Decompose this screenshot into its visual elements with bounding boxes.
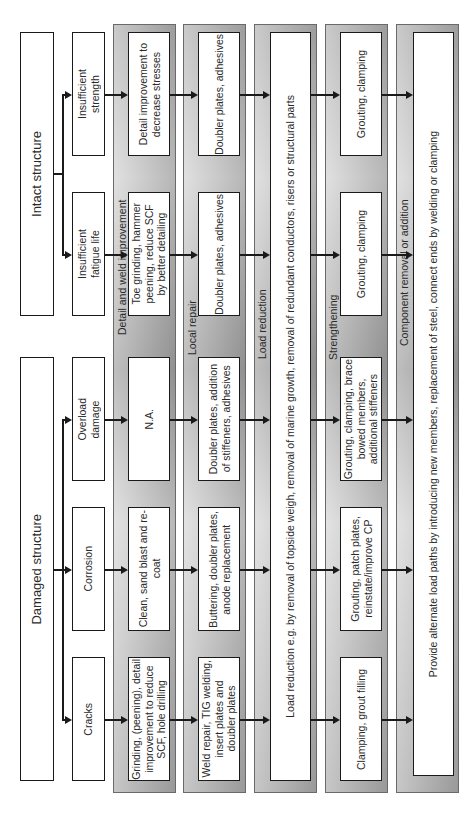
arrow-icon [406,716,413,724]
arrow-line [311,719,334,721]
arrow-line [240,419,264,421]
arrow-line [382,94,407,96]
repair-cell: Grinding, (peening), detail improvement … [128,657,170,781]
arrow-icon [406,566,413,574]
arrow-line [105,254,122,256]
arrow-icon [121,416,128,424]
arrow-icon [333,716,340,724]
arrow-icon [65,251,72,259]
arrow-line [240,254,264,256]
arrow-line [105,719,122,721]
band-title: Strengthening [327,300,339,360]
arrow-line [382,254,407,256]
repair-cell-full: Load reduction e.g. by removal of topsid… [270,32,311,781]
cause-cracks: Cracks [72,657,105,781]
band-title: Load reduction [256,290,268,370]
repair-cell: Clamping, grout filling [340,657,382,781]
arrow-line [311,94,334,96]
arrow-icon [65,416,72,424]
arrow-icon [191,91,198,99]
arrow-icon [65,91,72,99]
arrow-icon [333,91,340,99]
arrow-line [311,569,334,571]
arrow-line [170,94,192,96]
arrow-line [170,719,192,721]
repair-cell: Doubler plates, adhesives [198,32,240,156]
repair-cell: Weld repair, TIG welding, insert plates … [198,657,240,781]
cause-overload-damage: Overload damage [72,357,105,481]
connector [62,94,64,256]
arrow-icon [121,251,128,259]
band-title: Local repair [186,300,198,360]
arrow-icon [263,251,270,259]
arrow-icon [121,566,128,574]
repair-cell: Grouting, clamping [340,192,382,316]
band-title: Component removal or addition [398,200,410,360]
arrow-line [311,419,334,421]
repair-cell-full: Provide alternate load paths by introduc… [413,32,454,776]
arrow-line [105,94,122,96]
cause-insufficient-fatigue-life: Insufficient fatigue life [72,192,105,316]
arrow-line [240,94,264,96]
arrow-icon [263,566,270,574]
intact-structure-label: Intact structure [31,131,44,217]
repair-cell: Buttering, doubler plates, anode replace… [198,507,240,631]
arrow-icon [191,566,198,574]
damaged-structure-box: Damaged structure [20,357,54,781]
arrow-icon [263,716,270,724]
repair-cell: Detail improvement to decrease stresses [128,32,170,156]
repair-cell: Toe grinding, hammer peening, reduce SCF… [128,192,170,316]
arrow-line [170,419,192,421]
arrow-icon [406,251,413,259]
damaged-structure-label: Damaged structure [31,514,44,625]
repair-cell: Clean, sand blast and re- coat [128,507,170,631]
arrow-line [170,569,192,571]
arrow-line [382,569,407,571]
arrow-line [240,719,264,721]
arrow-icon [333,566,340,574]
arrow-icon [263,416,270,424]
repair-cell: Grouting, patch plates, reinstate/improv… [340,507,382,631]
repair-cell: Doubler plates, addition of stiffeners, … [198,357,240,481]
intact-structure-box: Intact structure [20,32,54,316]
repair-cell: Grouting, clamping, brace bowed members,… [340,357,382,481]
cause-corrosion: Corrosion [72,507,105,631]
arrow-line [105,569,122,571]
arrow-icon [191,416,198,424]
band-title: Detail and weld improvement [116,200,128,360]
arrow-line [382,719,407,721]
arrow-icon [191,716,198,724]
arrow-line [240,569,264,571]
arrow-icon [333,251,340,259]
repair-cell: Grouting, clamping [340,32,382,156]
repair-cell: Doubler plates, adhesives [198,192,240,316]
arrow-icon [121,91,128,99]
arrow-icon [65,566,72,574]
arrow-icon [406,416,413,424]
arrow-icon [333,416,340,424]
repair-cell: N.A. [128,357,170,481]
arrow-line [170,254,192,256]
arrow-icon [406,91,413,99]
arrow-icon [263,91,270,99]
arrow-line [105,419,122,421]
arrow-icon [191,251,198,259]
arrow-icon [121,716,128,724]
arrow-icon [65,716,72,724]
arrow-line [311,254,334,256]
arrow-line [382,419,407,421]
cause-insufficient-strength: Insufficient strength [72,32,105,156]
